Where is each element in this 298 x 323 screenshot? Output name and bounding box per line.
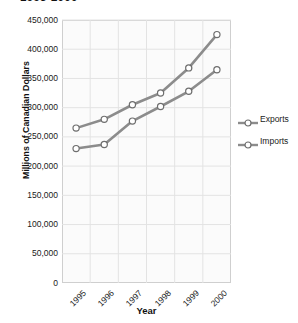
legend-label: Exports xyxy=(260,114,289,124)
legend-marker-icon xyxy=(238,136,258,146)
data-point-marker xyxy=(73,145,79,151)
data-point-marker xyxy=(129,102,135,108)
legend-marker-icon xyxy=(238,114,258,124)
data-point-marker xyxy=(186,88,192,94)
legend-item-imports[interactable]: Imports xyxy=(238,132,296,150)
data-point-marker xyxy=(157,90,163,96)
gridlines xyxy=(62,20,231,283)
data-point-marker xyxy=(186,65,192,71)
data-point-marker xyxy=(129,118,135,124)
chart-legend: ExportsImports xyxy=(238,110,296,154)
data-point-marker xyxy=(73,125,79,131)
legend-item-exports[interactable]: Exports xyxy=(238,110,296,128)
legend-label: Imports xyxy=(260,136,288,146)
data-point-marker xyxy=(214,32,220,38)
data-point-marker xyxy=(101,116,107,122)
data-point-marker xyxy=(101,141,107,147)
data-point-marker xyxy=(157,103,163,109)
chart-figure: 1995-2000 Millions of Canadian Dollars Y… xyxy=(0,0,298,323)
data-point-marker xyxy=(214,67,220,73)
chart-plot-svg xyxy=(0,0,298,323)
